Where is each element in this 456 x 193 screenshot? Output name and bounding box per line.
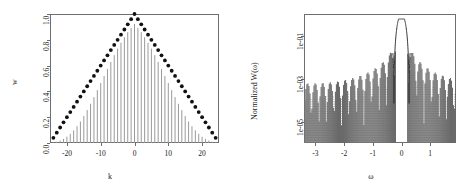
left-y-tick-label: 1.0: [42, 16, 51, 25]
left-y-tick-label: 0.4: [42, 93, 51, 102]
left-y-tick-mark: [47, 66, 50, 67]
left-x-tick-label: 0: [123, 149, 147, 158]
left-y-tick-label: 0.6: [42, 67, 51, 76]
right-y-tick-label: 1e-01: [296, 32, 305, 49]
left-x-axis-title: k: [90, 172, 130, 181]
left-y-tick-label: 0.8: [42, 41, 51, 50]
right-x-tick-label: 1: [418, 149, 442, 158]
left-x-tick-label: 10: [156, 149, 180, 158]
left-x-tick-mark: [202, 143, 203, 146]
right-x-tick-label: -3: [303, 149, 327, 158]
sidelobe-spikes-solid: [305, 52, 456, 143]
left-x-tick-mark: [135, 143, 136, 146]
left-x-tick-mark: [168, 143, 169, 146]
left-x-tick-mark: [101, 143, 102, 146]
right-x-tick-mark: [373, 143, 374, 146]
lag-window-panel: w k -20-1001020 0.00.20.40.60.81.0: [0, 0, 226, 193]
right-x-tick-label: -2: [332, 149, 356, 158]
left-x-tick-label: 20: [190, 149, 214, 158]
right-y-tick-label: 1e-03: [296, 75, 305, 92]
right-x-tick-label: 0: [390, 149, 414, 158]
right-y-tick-label: 1e-05: [296, 118, 305, 135]
right-x-tick-mark: [402, 143, 403, 146]
left-x-tick-label: -20: [55, 149, 79, 158]
right-x-tick-mark: [344, 143, 345, 146]
right-x-tick-mark: [315, 143, 316, 146]
right-plot-canvas: [226, 0, 453, 193]
left-x-tick-mark: [67, 143, 68, 146]
right-x-axis-title: ω: [356, 172, 386, 181]
right-x-tick-mark: [430, 143, 431, 146]
left-y-tick-label: 0.0: [42, 145, 51, 154]
right-y-axis-title: Normalized W(ω): [250, 62, 259, 120]
left-x-tick-label: -10: [89, 149, 113, 158]
left-y-axis-title: w: [10, 79, 19, 85]
spectral-window-panel: Normalized W(ω) ω -3-2-101 1e-051e-031e-…: [226, 0, 453, 193]
modified-window-spikes: [53, 24, 215, 143]
right-x-tick-label: -1: [361, 149, 385, 158]
left-y-tick-label: 0.2: [42, 119, 51, 128]
